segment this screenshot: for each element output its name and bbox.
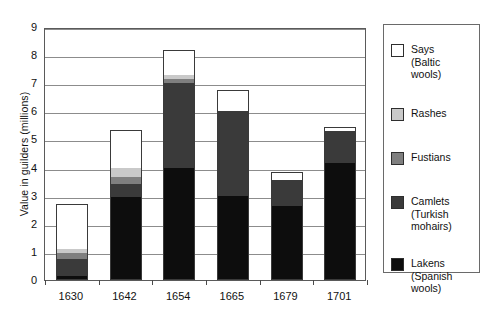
- y-tick-label: 2: [7, 219, 37, 230]
- bar-segment-camlets-1679: [271, 180, 303, 205]
- bar-segment-camlets-1642: [110, 184, 142, 197]
- legend-item-lakens: Lakens (Spanish wools): [391, 257, 479, 295]
- y-tick-label: 8: [7, 50, 37, 61]
- bar-segment-camlets-1665: [217, 111, 249, 195]
- bar-segment-says-1679: [271, 172, 303, 180]
- gridline: [45, 170, 365, 171]
- x-tick-label-1654: 1654: [150, 291, 206, 302]
- bar-1630: [56, 204, 88, 280]
- x-tick-mark: [313, 280, 314, 285]
- bar-segment-camlets-1701: [324, 131, 356, 163]
- x-tick-label-1642: 1642: [97, 291, 153, 302]
- bar-segment-fustians-1642: [110, 177, 142, 184]
- y-tick-label: 4: [7, 163, 37, 174]
- y-tick-label: 6: [7, 106, 37, 117]
- gridline: [45, 29, 365, 30]
- legend-item-camlets: Camlets (Turkish mohairs): [391, 195, 479, 233]
- bar-segment-lakens-1679: [271, 206, 303, 280]
- legend-label: Fustians: [411, 151, 451, 164]
- x-tick-label-1630: 1630: [43, 291, 99, 302]
- bar-segment-camlets-1630: [56, 259, 88, 276]
- x-tick-label-1701: 1701: [311, 291, 367, 302]
- bar-1701: [324, 127, 356, 280]
- chart-figure: Value in guilders (millions) 0123456789 …: [0, 0, 486, 323]
- x-tick-label-1665: 1665: [204, 291, 260, 302]
- y-tick-label: 7: [7, 78, 37, 89]
- legend-label: Says (Baltic wools): [411, 43, 441, 81]
- y-tick-label: 9: [7, 22, 37, 33]
- legend-item-fustians: Fustians: [391, 151, 479, 165]
- bar-segment-lakens-1701: [324, 163, 356, 280]
- legend-label: Rashes: [411, 107, 447, 120]
- y-tick-label: 5: [7, 134, 37, 145]
- bar-segment-rashes-1654: [163, 75, 195, 79]
- x-tick-mark: [99, 280, 100, 285]
- bar-1642: [110, 130, 142, 280]
- bar-segment-says-1642: [110, 130, 142, 168]
- legend-swatch-icon: [391, 108, 404, 121]
- legend-swatch-icon: [391, 196, 404, 209]
- bar-segment-fustians-1654: [163, 79, 195, 83]
- x-tick-mark: [260, 280, 261, 285]
- legend-label: Lakens (Spanish wools): [411, 257, 452, 295]
- gridline: [45, 113, 365, 114]
- bar-1679: [271, 172, 303, 280]
- bar-segment-says-1654: [163, 50, 195, 75]
- x-tick-label-1679: 1679: [258, 291, 314, 302]
- x-tick-mark: [152, 280, 153, 285]
- bar-1654: [163, 50, 195, 281]
- gridline: [45, 198, 365, 199]
- bar-segment-lakens-1654: [163, 168, 195, 280]
- x-tick-mark: [206, 280, 207, 285]
- x-tick-mark: [367, 280, 368, 285]
- legend-label: Camlets (Turkish mohairs): [411, 195, 452, 233]
- gridline: [45, 141, 365, 142]
- bar-1665: [217, 90, 249, 280]
- legend-swatch-icon: [391, 44, 404, 57]
- gridline: [45, 226, 365, 227]
- bar-segment-says-1630: [56, 204, 88, 249]
- gridline: [45, 85, 365, 86]
- bar-segment-rashes-1630: [56, 249, 88, 253]
- bar-segment-camlets-1654: [163, 83, 195, 167]
- gridline: [45, 254, 365, 255]
- bar-segment-says-1665: [217, 90, 249, 111]
- bar-segment-fustians-1630: [56, 253, 88, 259]
- bar-segment-says-1701: [324, 127, 356, 131]
- plot-area: [44, 28, 366, 281]
- bar-segment-lakens-1642: [110, 197, 142, 280]
- legend-item-rashes: Rashes: [391, 107, 479, 121]
- legend-swatch-icon: [391, 152, 404, 165]
- y-tick-label: 3: [7, 191, 37, 202]
- legend-swatch-icon: [391, 258, 404, 271]
- bar-segment-lakens-1665: [217, 196, 249, 280]
- bar-segment-rashes-1642: [110, 168, 142, 178]
- legend-item-says: Says (Baltic wools): [391, 43, 479, 81]
- y-tick-label: 0: [7, 275, 37, 286]
- bar-segment-lakens-1630: [56, 276, 88, 280]
- x-tick-mark: [45, 280, 46, 285]
- chart-legend: Says (Baltic wools)RashesFustiansCamlets…: [383, 24, 480, 273]
- gridline: [45, 57, 365, 58]
- y-tick-label: 1: [7, 247, 37, 258]
